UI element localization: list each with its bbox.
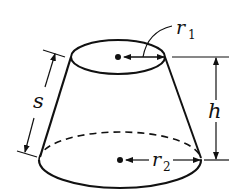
left-slant-edge <box>40 57 71 157</box>
r1-label: r <box>176 16 187 38</box>
s-label: s <box>33 89 44 113</box>
radius-r1: r 1 <box>115 16 196 60</box>
radius-r2: r 2 <box>117 148 200 174</box>
slant-dimension: s <box>17 50 65 157</box>
r2-label: r <box>152 148 163 170</box>
height-dimension: h <box>172 57 229 160</box>
r2-subscript: 2 <box>163 160 171 174</box>
r1-subscript: 1 <box>188 28 196 42</box>
right-slant-edge <box>165 57 201 158</box>
frustum-diagram: r 1 r 2 h s <box>0 0 246 195</box>
h-label: h <box>208 99 222 123</box>
